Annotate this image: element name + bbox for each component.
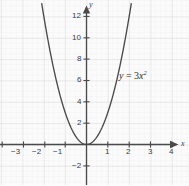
x-tick-label--2: −2 — [32, 147, 41, 156]
y-axis — [83, 6, 90, 186]
x-tick-label--1: −1 — [53, 147, 62, 156]
y-tick-label--2: −2 — [72, 161, 81, 170]
y-tick-label-8: 8 — [77, 54, 81, 63]
x-tick-label-4: 4 — [169, 147, 173, 156]
equation-lhs: y — [119, 70, 123, 81]
x-tick-label--3: −3 — [11, 147, 20, 156]
graph-figure: −3 −2 −1 1 2 3 4 −2 2 4 6 8 10 12 x y y … — [0, 0, 189, 185]
x-tick-label-1: 1 — [105, 147, 109, 156]
equation-equals: = — [126, 70, 132, 81]
y-tick-label-4: 4 — [77, 97, 81, 106]
x-tick-label-2: 2 — [126, 147, 130, 156]
x-tick-label-3: 3 — [148, 147, 152, 156]
y-tick-label-10: 10 — [72, 33, 81, 42]
y-axis-label: y — [89, 0, 93, 9]
plot-layer — [0, 0, 189, 185]
y-tick-label-12: 12 — [72, 11, 81, 20]
x-axis-label: x — [181, 139, 185, 148]
y-tick-label-2: 2 — [77, 118, 81, 127]
equation-exponent: 2 — [144, 69, 147, 76]
equation-annotation: y = 3x2 — [119, 69, 147, 81]
y-tick-label-6: 6 — [77, 75, 81, 84]
